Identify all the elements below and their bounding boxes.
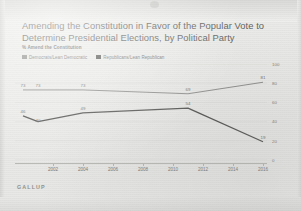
x-tick-mark: [83, 163, 84, 166]
x-tick-label: 2010: [168, 167, 178, 172]
y-tick-label: 100: [272, 62, 279, 67]
legend-item-republican: Republicans/Lean Republican: [96, 55, 164, 60]
data-label: 40: [36, 118, 41, 123]
legend-swatch-icon-democrat: [22, 55, 27, 60]
x-tick-mark: [203, 163, 204, 166]
data-label: 49: [81, 106, 86, 111]
x-tick-label: 2002: [48, 167, 58, 172]
chart-subtitle: % Amend the Constitution: [22, 45, 82, 50]
x-tick-label: 2008: [138, 167, 148, 172]
data-label: 54: [186, 101, 191, 106]
plot-svg: [15, 64, 267, 160]
data-label: 81: [261, 75, 266, 80]
gallup-logo: GALLUP: [17, 184, 46, 190]
series-line-democrat: [23, 82, 263, 94]
page-top-artifact: [150, 1, 159, 8]
x-tick-mark: [173, 163, 174, 166]
page-bottom-edge: [0, 197, 301, 211]
legend-swatch-icon-republican: [96, 55, 101, 60]
chart-page: Amending the Constitution in Favor of th…: [0, 0, 301, 211]
data-label: 73: [21, 83, 26, 88]
legend-item-democrat: Democrats/Lean Democratic: [22, 55, 87, 60]
x-tick-mark: [233, 163, 234, 166]
x-tick-mark: [113, 163, 114, 166]
y-tick-label: 60: [272, 100, 277, 105]
data-label: 46: [21, 109, 26, 114]
chart-legend: Democrats/Lean Democratic Republicans/Le…: [22, 55, 164, 60]
x-tick-mark: [53, 163, 54, 166]
x-tick-label: 2016: [258, 167, 268, 172]
x-tick-mark: [263, 163, 264, 166]
page-left-edge: [0, 0, 5, 211]
legend-label-republican: Republicans/Lean Republican: [103, 55, 164, 60]
x-tick-label: 2014: [228, 167, 238, 172]
y-tick-label: 0: [272, 158, 274, 163]
y-tick-label: 40: [272, 119, 277, 124]
series-line-republican: [23, 108, 263, 142]
y-axis: 100806040200: [270, 62, 298, 162]
x-tick-mark: [143, 163, 144, 166]
data-label: 73: [81, 83, 86, 88]
x-tick-label: 2012: [198, 167, 208, 172]
y-tick-label: 80: [272, 81, 277, 86]
x-tick-label: 2004: [78, 167, 88, 172]
data-label: 73: [36, 83, 41, 88]
chart-title: Amending the Constitution in Favor of th…: [22, 20, 277, 43]
data-label: 69: [186, 87, 191, 92]
x-tick-label: 2006: [108, 167, 118, 172]
y-tick-label: 20: [272, 139, 277, 144]
x-axis: 20022004200620082010201220142016: [15, 163, 267, 175]
data-label: 19: [261, 135, 266, 140]
legend-label-democrat: Democrats/Lean Democratic: [29, 55, 87, 60]
plot-area: [15, 64, 267, 160]
